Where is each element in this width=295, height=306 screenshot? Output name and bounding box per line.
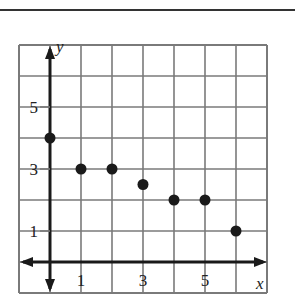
x-tick-label: 1 (77, 271, 86, 290)
y-tick-label: 3 (30, 160, 39, 179)
x-axis-arrow-left-icon (20, 257, 33, 267)
y-tick-label: 1 (30, 222, 39, 241)
grid-lines (19, 45, 267, 293)
x-tick-label: 3 (139, 271, 148, 290)
y-axis-label: y (54, 37, 64, 56)
x-tick-label: 5 (201, 271, 210, 290)
x-axis-arrow-right-icon (254, 257, 267, 267)
data-point (231, 226, 242, 237)
y-tick-label: 5 (30, 98, 39, 117)
data-point (45, 133, 56, 144)
data-point (138, 179, 149, 190)
data-point (107, 164, 118, 175)
scatter-plot: y x 135135 (0, 0, 295, 306)
data-point (76, 164, 87, 175)
x-axis-label: x (255, 274, 264, 293)
data-point (169, 195, 180, 206)
y-axis-arrow-up-icon (45, 46, 55, 59)
data-point (200, 195, 211, 206)
y-axis-arrow-down-icon (45, 279, 55, 292)
